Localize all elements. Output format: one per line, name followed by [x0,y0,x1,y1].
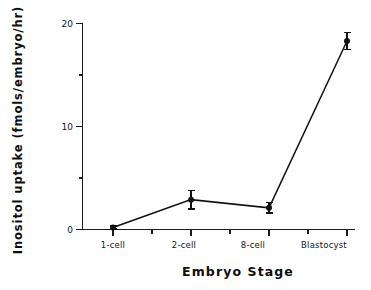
x-axis-ticks [113,230,347,237]
x-tick-label-2-cell: 2-cell [172,240,196,250]
data-point-markers [110,38,350,230]
x-tick-label-8-cell: 8-cell [241,240,265,250]
chart-figure: 20 10 0 1-cell 2-cell 8-cell Blastocyst … [0,0,371,290]
x-tick-label-1-cell: 1-cell [101,240,125,250]
y-axis-title: Inositol uptake (fmols/embryo/hr) [11,6,25,255]
y-tick-label-0: 0 [67,225,73,235]
series-line-inositol-uptake [113,41,347,227]
data-point-2-cell [188,197,194,203]
data-point-1-cell [110,224,116,230]
data-point-8-cell [266,205,272,211]
y-tick-label-20: 20 [62,19,74,29]
x-axis-title: Embryo Stage [182,264,294,279]
data-point-Blastocyst [344,38,350,44]
x-tick-label-blastocyst: Blastocyst [301,240,347,250]
line-chart: 20 10 0 1-cell 2-cell 8-cell Blastocyst … [0,0,371,290]
y-tick-label-10: 10 [62,122,74,132]
error-bars [110,33,351,229]
y-axis-major-ticks [76,24,83,230]
axis-spines [83,24,356,230]
